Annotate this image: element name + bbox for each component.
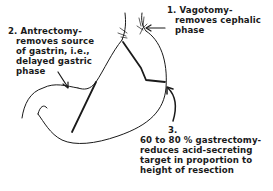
annotation-title: Vagotomy- (180, 5, 233, 15)
annotation-gastrectomy: 60 to 80 % gastrectomy- reduces acid-sec… (140, 135, 261, 175)
duodenum-upper-wall (22, 85, 78, 118)
annotation-text-line: target in proportion to (140, 155, 261, 165)
arrow-gastrectomy (168, 88, 175, 121)
annotation-text-line: of gastrin, i.e., (8, 46, 94, 56)
annotation-antrectomy: 2. Antrectomy- removes source of gastrin… (8, 26, 94, 76)
stomach-diagram: 2. Antrectomy- removes source of gastrin… (0, 0, 273, 191)
vagus-nerve-left-icon (118, 28, 127, 38)
annotation-text-line: removes source (8, 36, 94, 46)
annotation-title: 60 to 80 % gastrectomy- (140, 135, 261, 145)
annotation-text-line: reduces acid-secreting (140, 145, 261, 155)
annotation-title: Antrectomy- (21, 26, 82, 36)
annotation-text-line: delayed gastric (8, 56, 94, 66)
annotation-number: 3. (168, 125, 177, 135)
duodenum-inner-wall (38, 106, 47, 114)
antrectomy-resection-line (72, 82, 96, 132)
annotation-text-line: height of resection (140, 165, 261, 175)
annotation-number: 2. (8, 26, 17, 36)
annotation-number: 1. (167, 5, 176, 15)
annotation-text-line: removes cephalic (167, 15, 261, 25)
annotation-text-line: phase (8, 66, 94, 76)
annotation-text-line: phase (167, 25, 261, 35)
gastrectomy-resection-line (123, 42, 165, 82)
annotation-vagotomy: 1. Vagotomy- removes cephalic phase (167, 5, 261, 35)
